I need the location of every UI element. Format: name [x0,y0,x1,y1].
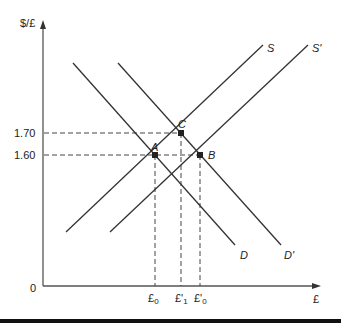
exchange-rate-diagram: $/£ £ 0 1.70 1.60 £0 £'1 £'0 S S' D D' A… [0,0,341,323]
origin-label: 0 [30,282,36,294]
label-point-c: C [178,118,186,130]
y-tick-160: 1.60 [14,149,35,161]
guide-lines [44,133,200,286]
y-axis-label: $/£ [20,17,35,29]
y-tick-170: 1.70 [14,127,35,139]
supply-curve-s [66,45,263,232]
x-tick-pound-0: £0 [148,292,159,306]
point-c-marker [178,130,184,136]
point-b-marker [197,152,203,158]
label-d-prime: D' [284,249,295,261]
x-tick-pound-0-prime: £'0 [194,292,207,306]
label-s: S [267,42,275,54]
label-d: D [240,249,248,261]
label-point-a: A [150,141,158,153]
x-axis-arrow-icon [312,283,321,289]
x-axis-label: £ [313,293,319,305]
label-s-prime: S' [312,42,322,54]
y-axis-arrow-icon [40,20,46,29]
x-tick-pound-1-prime: £'1 [175,292,188,306]
bottom-border-bar [0,319,341,323]
label-point-b: B [208,149,215,161]
